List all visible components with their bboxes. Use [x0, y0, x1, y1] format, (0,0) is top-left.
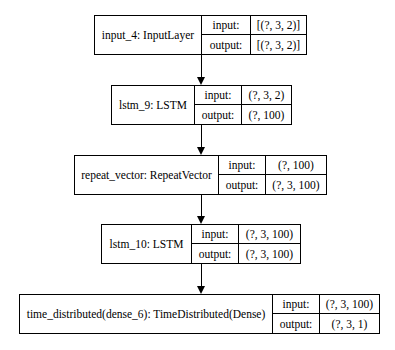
node-lstm-10: lstm_10: LSTM input: (?, 3, 100) output:… [101, 224, 301, 264]
input-shape: [(?, 3, 2)] [251, 16, 306, 34]
output-shape: (?, 3, 1) [320, 314, 379, 333]
edge-line [201, 55, 202, 77]
output-label: output: [192, 244, 239, 263]
node-io-table: input: (?, 3, 100) output: (?, 3, 100) [192, 225, 300, 263]
node-input-layer: input_4: InputLayer input: [(?, 3, 2)] o… [94, 15, 307, 55]
edge-line [201, 264, 202, 286]
arrowhead-icon [197, 216, 205, 224]
input-shape: (?, 3, 100) [239, 225, 300, 243]
input-row: input: (?, 3, 2) [195, 86, 291, 105]
node-repeat-vector: repeat_vector: RepeatVector input: (?, 1… [74, 155, 327, 195]
output-shape: (?, 3, 100) [239, 244, 300, 263]
output-row: output: (?, 3, 100) [192, 244, 300, 263]
output-shape: (?, 100) [242, 105, 291, 124]
output-row: output: (?, 100) [195, 105, 291, 124]
output-row: output: [(?, 3, 2)] [202, 35, 306, 54]
input-row: input: [(?, 3, 2)] [202, 16, 306, 35]
node-io-table: input: [(?, 3, 2)] output: [(?, 3, 2)] [202, 16, 306, 54]
arrowhead-icon [197, 286, 205, 294]
node-name: lstm_9: LSTM [112, 86, 195, 124]
node-name: lstm_10: LSTM [102, 225, 192, 263]
output-row: output: (?, 3, 100) [219, 175, 326, 194]
output-shape: [(?, 3, 2)] [251, 35, 306, 54]
output-label: output: [202, 35, 251, 54]
input-label: input: [202, 16, 251, 34]
edge-line [201, 195, 202, 216]
node-time-distributed-dense: time_distributed(dense_6): TimeDistribut… [19, 294, 380, 334]
input-label: input: [192, 225, 239, 243]
output-shape: (?, 3, 100) [266, 175, 326, 194]
node-io-table: input: (?, 3, 100) output: (?, 3, 1) [273, 295, 379, 333]
node-name: input_4: InputLayer [95, 16, 202, 54]
input-shape: (?, 3, 2) [242, 86, 291, 104]
node-name: time_distributed(dense_6): TimeDistribut… [20, 295, 273, 333]
output-label: output: [219, 175, 266, 194]
input-label: input: [219, 156, 266, 174]
input-row: input: (?, 3, 100) [273, 295, 379, 314]
input-label: input: [273, 295, 320, 313]
edge-line [201, 125, 202, 147]
input-label: input: [195, 86, 242, 104]
output-label: output: [195, 105, 242, 124]
node-lstm-9: lstm_9: LSTM input: (?, 3, 2) output: (?… [111, 85, 292, 125]
arrowhead-icon [197, 77, 205, 85]
input-shape: (?, 3, 100) [320, 295, 379, 313]
node-io-table: input: (?, 100) output: (?, 3, 100) [219, 156, 326, 194]
node-name: repeat_vector: RepeatVector [75, 156, 219, 194]
node-io-table: input: (?, 3, 2) output: (?, 100) [195, 86, 291, 124]
input-row: input: (?, 100) [219, 156, 326, 175]
input-shape: (?, 100) [266, 156, 326, 174]
output-row: output: (?, 3, 1) [273, 314, 379, 333]
arrowhead-icon [197, 147, 205, 155]
input-row: input: (?, 3, 100) [192, 225, 300, 244]
output-label: output: [273, 314, 320, 333]
